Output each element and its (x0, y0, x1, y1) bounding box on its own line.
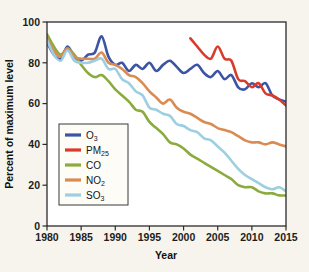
y-tick-label: 20 (28, 179, 40, 191)
legend-label-CO[interactable]: CO (86, 160, 101, 171)
chart-legend[interactable]: O3PM25CONO2SO3 (59, 124, 128, 205)
legend-subscript: 2 (101, 180, 105, 187)
legend-subscript: 3 (100, 195, 104, 202)
x-tick-label: 2005 (206, 231, 230, 243)
legend-subscript: 25 (101, 150, 109, 157)
y-tick-label: 0 (34, 220, 40, 232)
line-chart-svg: 1980198519901995200020052010201502040608… (0, 0, 309, 272)
chart-figure: 1980198519901995200020052010201502040608… (0, 0, 309, 272)
legend-subscript: 3 (94, 135, 98, 142)
x-tick-label: 2010 (240, 231, 264, 243)
x-axis-title: Year (155, 249, 177, 261)
screenshot-root: 1980198519901995200020052010201502040608… (0, 0, 309, 272)
y-tick-label: 40 (28, 138, 40, 150)
x-tick-label: 1990 (104, 231, 128, 243)
y-tick-label: 100 (22, 16, 40, 28)
x-tick-label: 1980 (35, 231, 59, 243)
y-tick-label: 60 (28, 97, 40, 109)
y-tick-label: 80 (28, 57, 40, 69)
x-tick-label: 1995 (138, 231, 162, 243)
x-tick-label: 1985 (69, 231, 93, 243)
x-tick-label: 2000 (172, 231, 196, 243)
y-axis-title: Percent of maximum level (3, 59, 15, 189)
x-tick-label: 2015 (274, 231, 298, 243)
